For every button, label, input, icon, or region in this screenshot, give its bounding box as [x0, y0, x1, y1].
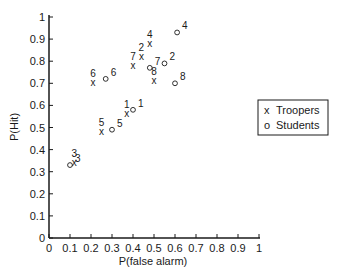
x-axis-title: P(false alarm) — [119, 255, 187, 267]
o-marker-icon — [162, 61, 167, 66]
data-point: x7 — [130, 51, 136, 71]
y-tick-label: 0.1 — [30, 210, 45, 222]
o-marker-icon — [131, 107, 136, 112]
y-tick-label: 0.8 — [30, 55, 45, 67]
y-tick-label: 0 — [39, 232, 45, 244]
y-tick-label: 0.2 — [30, 188, 45, 200]
legend-symbol-x: x — [264, 104, 270, 116]
data-point: x5 — [99, 117, 105, 137]
data-point: 6 — [103, 67, 116, 81]
x-tick-label: 0.8 — [209, 242, 224, 254]
y-tick-label: 1 — [39, 11, 45, 23]
o-marker-icon — [173, 81, 178, 86]
scatter-chart: 00.10.20.30.40.50.60.70.80.91 00.10.20.3… — [0, 0, 338, 274]
axes: 00.10.20.30.40.50.60.70.80.91 00.10.20.3… — [30, 11, 262, 254]
y-tick-label: 0.7 — [30, 77, 45, 89]
legend-label-students: Students — [276, 119, 320, 131]
x-tick-label: 0.3 — [104, 242, 119, 254]
y-tick-label: 0.4 — [30, 144, 45, 156]
point-label: 3 — [75, 153, 81, 164]
x-tick-label: 0.1 — [62, 242, 77, 254]
data-point: 1 — [131, 98, 144, 112]
x-tick-label: 0.2 — [83, 242, 98, 254]
data-point: 4 — [175, 20, 188, 34]
legend-label-troopers: Troopers — [276, 104, 320, 116]
point-label: 7 — [155, 56, 161, 67]
y-axis-title: P(Hit) — [8, 113, 20, 141]
x-tick-label: 1 — [256, 242, 262, 254]
data-point: 5 — [110, 118, 123, 132]
x-ticks: 00.10.20.30.40.50.60.70.80.91 — [46, 234, 262, 254]
series-students: 12345678 — [68, 20, 189, 167]
o-marker-icon — [103, 76, 108, 81]
point-label: 6 — [90, 68, 96, 79]
point-label: 1 — [124, 99, 130, 110]
data-point: x1 — [124, 99, 130, 119]
legend-symbol-o: o — [264, 119, 270, 131]
point-label: 6 — [111, 67, 117, 78]
point-label: 5 — [99, 117, 105, 128]
x-tick-label: 0.5 — [146, 242, 161, 254]
data-point: x2 — [139, 42, 145, 62]
data-points: x1x2x3x4x5x6x7x812345678 — [68, 20, 189, 167]
legend: x Troopers o Students — [258, 100, 328, 135]
point-label: 4 — [147, 29, 153, 40]
point-label: 7 — [130, 51, 136, 62]
y-tick-label: 0.3 — [30, 166, 45, 178]
y-tick-label: 0.5 — [30, 122, 45, 134]
point-label: 4 — [182, 20, 188, 31]
point-label: 2 — [139, 42, 145, 53]
x-tick-label: 0.6 — [167, 242, 182, 254]
x-tick-label: 0.9 — [230, 242, 245, 254]
x-tick-label: 0.4 — [125, 242, 140, 254]
point-label: 1 — [138, 98, 144, 109]
y-tick-label: 0.6 — [30, 99, 45, 111]
y-tick-label: 0.9 — [30, 33, 45, 45]
point-label: 2 — [170, 51, 176, 62]
o-marker-icon — [175, 30, 180, 35]
data-point: x4 — [147, 29, 153, 49]
data-point: 8 — [173, 71, 186, 85]
o-marker-icon — [110, 127, 115, 132]
series-troopers: x1x2x3x4x5x6x7x8 — [71, 29, 157, 168]
x-tick-label: 0.7 — [188, 242, 203, 254]
data-point: 2 — [162, 51, 175, 65]
point-label: 8 — [180, 71, 186, 82]
x-tick-label: 0 — [46, 242, 52, 254]
point-label: 5 — [117, 118, 123, 129]
data-point: x6 — [90, 68, 96, 88]
